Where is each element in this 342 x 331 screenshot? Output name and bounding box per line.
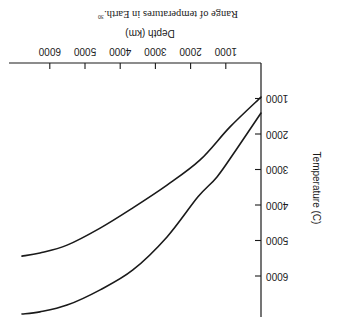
y-tick-label: 6000 [266,271,289,282]
x-tick-label: 6000 [38,46,61,57]
caption-footnote-marker: 30 [98,14,104,20]
axes [9,63,261,317]
x-tick-label: 1000 [214,46,237,57]
rotated-figure-group: 100020003000400050006000 100020003000400… [9,9,322,317]
y-tick-label: 3000 [266,164,289,175]
x-tick-label: 4000 [109,46,132,57]
x-tick-label: 3000 [144,46,167,57]
y-tick-label: 1000 [266,93,289,104]
y-axis-ticks: 100020003000400050006000 [255,93,288,282]
x-axis-title: Depth (km) [125,28,174,39]
x-tick-label: 5000 [73,46,96,57]
chart-canvas: 100020003000400050006000 100020003000400… [0,0,342,331]
figure: 100020003000400050006000 100020003000400… [0,0,342,331]
figure-caption: Range of temperatures in Earth.30 [98,9,238,20]
series-upper-bound-curve [22,113,261,314]
caption-text: Range of temperatures in Earth. [104,9,238,20]
y-tick-label: 4000 [266,200,289,211]
y-tick-label: 5000 [266,235,289,246]
y-tick-label: 2000 [266,129,289,140]
series-lower-bound-curve [22,97,261,256]
y-axis-title: Temperature (C) [311,152,322,225]
plot-series [22,97,261,314]
x-tick-label: 2000 [179,46,202,57]
x-axis-ticks: 100020003000400050006000 [38,46,237,69]
